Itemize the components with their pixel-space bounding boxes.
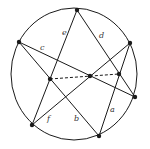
point-left [17,40,21,44]
point-inner-center [88,74,92,78]
label-c: c [40,43,45,52]
line-e [32,10,77,125]
point-inner-left [48,77,52,81]
label-e: e [62,28,67,37]
line-c [19,42,135,97]
line-a [99,43,130,136]
pascal-hexagon-diagram: a b c d e f [0,0,150,149]
point-inner-right [117,72,121,76]
dashed-pascal-line [50,74,119,79]
point-bottom-left [30,123,34,127]
point-right [133,95,137,99]
label-d: d [99,31,104,40]
label-f: f [46,114,52,123]
point-right-top [128,41,132,45]
point-bottom [97,134,101,138]
label-a: a [110,105,115,114]
label-b: b [74,114,79,123]
point-top [75,8,79,12]
